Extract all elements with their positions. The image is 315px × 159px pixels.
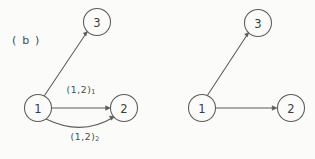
right-graph: 1 2 3 xyxy=(189,10,305,122)
right-edge-1-to-3 xyxy=(208,32,249,95)
node-label-3: 3 xyxy=(93,16,100,30)
arrow-head-r1-r2 xyxy=(272,106,277,111)
edge-label-lower-text: (1,2) xyxy=(71,131,96,142)
right-edge-1-to-2 xyxy=(216,106,278,111)
panel-label-b: ( b ) xyxy=(12,34,41,47)
edge-line-1-2-curved xyxy=(46,118,113,128)
node-label-1: 1 xyxy=(34,102,41,116)
left-edge-1-to-2-curved xyxy=(46,116,115,127)
arrow-head-1-2-straight xyxy=(106,106,111,111)
node-label-2: 2 xyxy=(120,102,127,116)
right-node-3[interactable]: 3 xyxy=(245,10,272,37)
node-label-r1: 1 xyxy=(198,102,205,116)
left-graph: 1 2 3 (1,2)1 (1,2)2 xyxy=(25,9,138,144)
edge-label-lower: (1,2)2 xyxy=(71,131,100,144)
edge-label-upper-text: (1,2) xyxy=(67,84,92,95)
left-node-2[interactable]: 2 xyxy=(111,95,138,122)
arrow-head-1-3 xyxy=(83,32,87,36)
edge-line-r1-r3 xyxy=(208,33,249,95)
right-node-2[interactable]: 2 xyxy=(278,95,305,122)
left-edge-1-to-2-straight xyxy=(52,106,111,111)
edge-label-upper: (1,2)1 xyxy=(67,84,96,97)
edge-label-lower-subscript: 2 xyxy=(95,135,99,143)
node-label-r3: 3 xyxy=(254,17,261,31)
graph-figure-svg: ( b ) 1 xyxy=(0,0,315,159)
left-node-3[interactable]: 3 xyxy=(84,9,111,36)
figure-container: ( b ) 1 xyxy=(0,0,315,159)
node-label-r2: 2 xyxy=(287,102,294,116)
right-node-1[interactable]: 1 xyxy=(189,95,216,122)
left-node-1[interactable]: 1 xyxy=(25,95,52,122)
arrow-head-r1-r3 xyxy=(245,32,249,37)
edge-label-upper-subscript: 1 xyxy=(91,88,95,96)
